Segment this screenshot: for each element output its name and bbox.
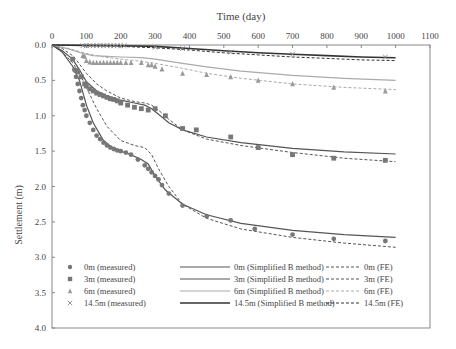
data-point-square bbox=[194, 128, 199, 133]
data-point-triangle bbox=[118, 60, 123, 65]
data-point-circle bbox=[74, 74, 79, 79]
data-point-square bbox=[153, 106, 158, 111]
y-tick-label: 1.5 bbox=[35, 146, 47, 156]
data-point-circle bbox=[383, 239, 388, 244]
series-line bbox=[52, 45, 396, 90]
legend-label: 3m (FE) bbox=[364, 274, 393, 284]
data-point-square bbox=[146, 108, 151, 113]
x-tick-label: 500 bbox=[217, 31, 231, 41]
data-point-triangle bbox=[160, 66, 165, 71]
legend-label: 0m (Simplified B method) bbox=[234, 262, 324, 272]
data-point-circle bbox=[136, 157, 141, 162]
data-point-square bbox=[256, 145, 261, 150]
x-tick-label: 600 bbox=[251, 31, 265, 41]
data-point-circle bbox=[252, 227, 257, 232]
data-point-square bbox=[75, 69, 80, 74]
series-line bbox=[52, 45, 396, 247]
legend-item: 0m (measured) bbox=[68, 262, 136, 272]
data-point-square bbox=[125, 103, 130, 108]
data-point-circle bbox=[331, 236, 336, 241]
legend-item: 3m (Simplified B method) bbox=[180, 274, 324, 284]
x-tick-label: 0 bbox=[50, 31, 55, 41]
data-point-circle bbox=[81, 103, 86, 108]
data-point-circle bbox=[84, 113, 89, 118]
legend-label: 0m (measured) bbox=[84, 262, 135, 272]
x-tick-label: 700 bbox=[286, 31, 300, 41]
series-markers bbox=[70, 43, 388, 243]
x-tick-label: 300 bbox=[148, 31, 162, 41]
data-point-square bbox=[139, 106, 144, 111]
data-point-square bbox=[132, 105, 137, 110]
x-tick-label: 400 bbox=[183, 31, 197, 41]
y-tick-label: 2.5 bbox=[35, 217, 47, 227]
data-point-circle bbox=[204, 214, 209, 219]
data-point-x bbox=[68, 301, 72, 305]
data-point-circle bbox=[82, 108, 87, 113]
x-tick-label: 1000 bbox=[387, 31, 406, 41]
data-point-circle bbox=[228, 218, 233, 223]
data-point-square bbox=[383, 158, 388, 163]
y-axis-label: Settlement (m) bbox=[13, 185, 25, 245]
data-point-square bbox=[118, 101, 123, 106]
legend-label: 6m (FE) bbox=[364, 286, 393, 296]
data-point-circle bbox=[118, 149, 123, 154]
x-tick-label: 200 bbox=[114, 31, 128, 41]
legend-label: 6m (Simplified B method) bbox=[234, 286, 324, 296]
data-point-square bbox=[228, 135, 233, 140]
legend: 0m (measured)3m (measured)6m (measured)1… bbox=[68, 262, 404, 308]
data-point-square bbox=[331, 156, 336, 161]
x-tick-label: 900 bbox=[355, 31, 369, 41]
data-point-square bbox=[163, 113, 168, 118]
legend-label: 3m (measured) bbox=[84, 274, 135, 284]
y-tick-label: 1.0 bbox=[35, 111, 47, 121]
series-lines bbox=[52, 45, 396, 247]
data-point-circle bbox=[77, 89, 82, 94]
data-point-circle bbox=[79, 96, 84, 101]
data-point-circle bbox=[153, 173, 158, 178]
data-point-circle bbox=[98, 137, 103, 142]
data-point-circle bbox=[75, 82, 80, 87]
data-point-circle bbox=[160, 183, 165, 188]
data-point-square bbox=[68, 277, 72, 281]
data-point-circle bbox=[123, 150, 128, 155]
legend-label: 14.5m (Simplified B method) bbox=[234, 298, 335, 308]
x-tick-label: 100 bbox=[80, 31, 94, 41]
data-point-square bbox=[180, 126, 185, 131]
x-tick-label: 800 bbox=[320, 31, 334, 41]
data-point-circle bbox=[149, 170, 154, 175]
legend-label: 14.5m (measured) bbox=[84, 298, 146, 308]
legend-label: 6m (measured) bbox=[84, 286, 135, 296]
legend-item: 6m (FE) bbox=[326, 286, 393, 296]
legend-label: 0m (FE) bbox=[364, 262, 393, 272]
legend-item: 0m (FE) bbox=[326, 262, 393, 272]
legend-item: 14.5m (FE) bbox=[326, 298, 403, 308]
legend-item: 3m (measured) bbox=[68, 274, 136, 284]
settlement-chart: 010020030040050060070080090010001100 0.0… bbox=[0, 0, 456, 349]
data-point-circle bbox=[290, 232, 295, 237]
data-point-square bbox=[79, 74, 84, 79]
y-tick-label: 3.5 bbox=[35, 288, 47, 298]
data-point-circle bbox=[87, 120, 92, 125]
data-point-triangle bbox=[149, 62, 154, 67]
legend-item: 6m (Simplified B method) bbox=[180, 286, 324, 296]
data-point-triangle bbox=[139, 60, 144, 65]
y-tick-label: 0.5 bbox=[35, 75, 47, 85]
data-point-square bbox=[290, 152, 295, 157]
data-point-circle bbox=[68, 265, 72, 269]
data-point-circle bbox=[129, 152, 134, 157]
data-point-circle bbox=[91, 127, 96, 132]
y-tick-label: 0.0 bbox=[35, 40, 47, 50]
legend-label: 3m (Simplified B method) bbox=[234, 274, 324, 284]
data-point-square bbox=[70, 57, 75, 62]
y-tick-label: 3.0 bbox=[35, 252, 47, 262]
legend-item: 0m (Simplified B method) bbox=[180, 262, 324, 272]
y-tick-label: 2.0 bbox=[35, 182, 47, 192]
data-point-triangle bbox=[68, 288, 72, 293]
data-point-triangle bbox=[180, 70, 185, 75]
data-point-circle bbox=[94, 133, 99, 138]
legend-item: 14.5m (measured) bbox=[68, 298, 146, 308]
legend-label: 14.5m (FE) bbox=[364, 298, 403, 308]
y-tick-label: 4.0 bbox=[35, 323, 47, 333]
data-point-circle bbox=[156, 177, 161, 182]
legend-item: 14.5m (Simplified B method) bbox=[180, 298, 335, 308]
